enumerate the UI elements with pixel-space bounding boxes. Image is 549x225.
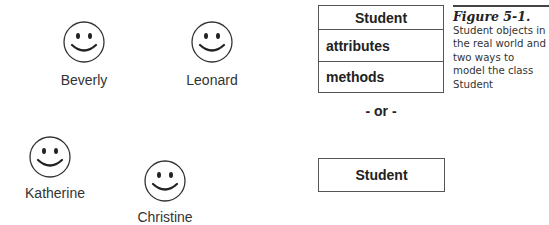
uml-class-name: Student — [319, 6, 443, 29]
uml-class-box-full: Student attributes methods — [318, 5, 444, 93]
uml-methods-compartment: methods — [319, 61, 443, 92]
smiley-face-icon — [144, 160, 186, 202]
object-label-katherine: Katherine — [10, 185, 100, 201]
smiley-face-icon — [191, 21, 233, 63]
smiley-face-icon — [63, 21, 105, 63]
object-label-leonard: Leonard — [167, 72, 257, 88]
figure-number: Figure 5-1. — [453, 9, 549, 24]
or-separator: - or - — [318, 103, 444, 119]
smiley-face-icon — [29, 136, 71, 178]
uml-class-box-simple: Student — [318, 158, 445, 192]
object-label-christine: Christine — [120, 209, 210, 225]
object-label-beverly: Beverly — [39, 72, 129, 88]
figure-caption: Figure 5-1. Student objects in the real … — [453, 5, 549, 91]
uml-attributes-compartment: attributes — [319, 29, 443, 61]
figure-caption-text: Student objects in the real world and tw… — [453, 24, 549, 91]
